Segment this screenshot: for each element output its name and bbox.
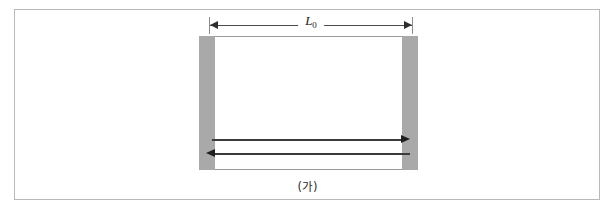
dimension-tick-right: [412, 17, 413, 34]
force-arrowhead-left-icon: [206, 149, 215, 157]
dimension-label: L0: [298, 13, 324, 30]
force-arrow-right: [212, 135, 410, 144]
force-arrow-left: [206, 149, 410, 158]
dimension-line-L0: L0: [209, 17, 413, 33]
force-shaft-lower: [214, 153, 410, 155]
figure-caption: (가): [0, 178, 615, 194]
figure-root: L0 (가): [0, 0, 615, 213]
dimension-label-subscript: 0: [312, 20, 317, 30]
dimension-arrowhead-left-icon: [210, 21, 218, 29]
force-arrowhead-right-icon: [401, 135, 410, 143]
dimension-arrowhead-right-icon: [404, 21, 412, 29]
force-shaft-upper: [212, 139, 402, 141]
